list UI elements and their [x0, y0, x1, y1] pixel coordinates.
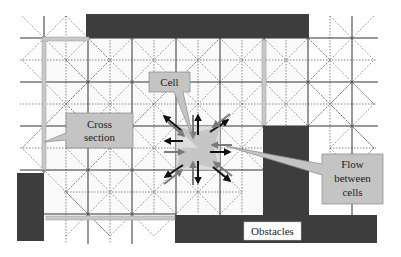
middle-vertical-section	[262, 40, 266, 125]
cross-section-label-line2: section	[84, 131, 116, 143]
obstacles-label-box: Obstacles	[244, 222, 301, 240]
flow-label-line3: cells	[342, 186, 362, 198]
top-obstacle	[86, 14, 309, 38]
left-vertical-section	[42, 38, 46, 170]
flow-grid-diagram: Cell Cross section Flow between cells Ob…	[0, 0, 401, 257]
right-obstacle	[263, 126, 309, 216]
cross-section-label-line1: Cross	[87, 118, 112, 130]
left-obstacle	[17, 173, 44, 241]
top-left-horizontal-section	[42, 37, 89, 41]
cell-label: Cell	[160, 76, 178, 88]
obstacles-label: Obstacles	[251, 225, 294, 237]
bottom-horizontal-section	[46, 216, 175, 220]
flow-label-line1: Flow	[341, 158, 364, 170]
flow-label-line2: between	[334, 172, 371, 184]
